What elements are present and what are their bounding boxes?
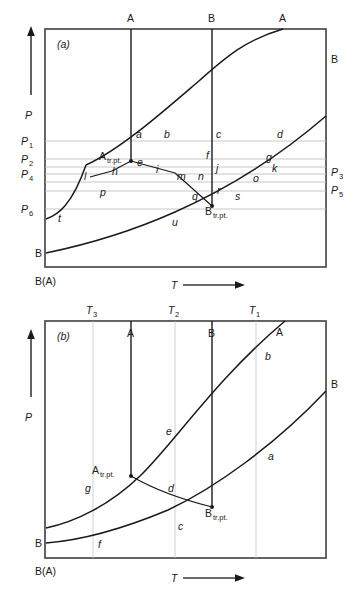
b-tr-pt-symbol: B [205, 205, 212, 217]
point-label-h: h [112, 165, 118, 177]
a-tr-pt-symbol-b: A [92, 464, 99, 476]
point-label-l: l [84, 170, 87, 182]
t-axis-a: T [171, 279, 245, 291]
panel-a-label: (a) [57, 38, 70, 50]
b-tr-pt-symbol-b: B [205, 507, 212, 519]
point-label-d-b: d [168, 482, 175, 494]
b-tr-pt-label: B tr.pt. [205, 205, 228, 220]
top-label-b-b: B [208, 327, 215, 339]
point-label-o: o [253, 172, 259, 184]
point-label-s: s [235, 190, 241, 202]
pressure-label-p3-symbol: P [331, 166, 338, 178]
a-tr-pt-sub-b: tr.pt. [100, 470, 115, 479]
b-tr-pt-sub: tr.pt. [213, 211, 228, 220]
b-tr-pt-sub-b: tr.pt. [213, 513, 228, 522]
pressure-label-p1: P 1 [21, 135, 33, 150]
point-label-m: m [177, 170, 186, 182]
pressure-label-p5-symbol: P [331, 184, 338, 196]
pressure-label-p3-sub: 3 [339, 172, 343, 181]
pressure-label-p2-sub: 2 [29, 159, 33, 168]
curve-end-label-a-b: A [276, 326, 283, 338]
left-label-b: B [35, 247, 42, 259]
temp-label-t2-sub: 2 [175, 310, 179, 319]
point-label-b: b [164, 128, 170, 140]
point-label-u: u [172, 216, 178, 228]
pressure-label-p6-sub: 6 [29, 209, 33, 218]
curve-a-left-tail [46, 165, 86, 219]
pressure-label-p5-sub: 5 [339, 190, 343, 199]
a-tr-pt-marker-b [129, 474, 133, 478]
curve-b-lower [46, 116, 326, 253]
pressure-label-p2-symbol: P [21, 153, 28, 165]
left-label-b-b: B [35, 537, 42, 549]
temp-label-t2: T 2 [168, 304, 179, 319]
top-label-b: B [208, 12, 215, 24]
point-label-g-b: g [85, 482, 91, 494]
curve-b-lower-b [46, 391, 326, 543]
t-axis-label-b: T [171, 572, 179, 584]
origin-label-a: B(A) [35, 275, 56, 287]
point-label-q: q [192, 190, 198, 202]
pressure-label-p3: P 3 [331, 166, 343, 181]
panel-b-label: (b) [57, 330, 70, 342]
right-label-b: B [331, 53, 338, 65]
panel-a: P (a) P 1 P 2 P 4 [0, 0, 355, 300]
origin-label-b: B(A) [35, 565, 56, 577]
pressure-label-p2: P 2 [21, 153, 33, 168]
pressure-label-p1-symbol: P [21, 135, 28, 147]
point-label-e: e [137, 156, 143, 168]
top-label-a-1: A [127, 12, 134, 24]
point-label-n: n [198, 170, 204, 182]
temp-label-t3-sub: 3 [93, 310, 97, 319]
panel-a-svg: P (a) P 1 P 2 P 4 [0, 0, 355, 300]
pressure-label-p4: P 4 [21, 168, 33, 183]
pressure-label-p4-sub: 4 [29, 174, 33, 183]
point-label-j: j [214, 162, 219, 174]
phase-diagram-figure: P (a) P 1 P 2 P 4 [0, 0, 355, 597]
temp-label-t3: T 3 [86, 304, 97, 319]
point-label-b-b: b [265, 350, 271, 362]
point-label-r: r [217, 184, 221, 196]
top-label-a-2: A [279, 12, 286, 24]
panel-b: P (b) T 3 T 2 T 1 [0, 300, 355, 597]
top-label-a-b: A [127, 327, 134, 339]
point-label-a: a [136, 128, 142, 140]
point-label-a-b: a [268, 450, 274, 462]
point-label-t: t [58, 212, 62, 224]
point-label-c-b: c [178, 520, 184, 532]
point-label-f-b: f [98, 538, 102, 550]
p-axis-arrow [27, 26, 35, 95]
pressure-label-p1-sub: 1 [29, 141, 33, 150]
p-axis-arrow-b [27, 329, 35, 397]
point-label-d: d [277, 128, 284, 140]
curve-a-upper [86, 29, 283, 165]
pressure-label-p5: P 5 [331, 184, 343, 199]
panel-b-svg: P (b) T 3 T 2 T 1 [0, 300, 355, 597]
a-tr-pt-label-b: A tr.pt. [92, 464, 115, 479]
temp-label-t1-sub: 1 [256, 310, 260, 319]
p-axis-label: P [25, 109, 32, 121]
pressure-label-p6: P 6 [21, 203, 33, 218]
b-tr-pt-label-b: B tr.pt. [205, 507, 228, 522]
p-axis-label-b: P [25, 411, 32, 423]
point-label-p: p [99, 186, 106, 198]
panel-a-frame [45, 29, 326, 267]
temp-label-t1: T 1 [249, 304, 260, 319]
panel-b-frame [45, 321, 326, 558]
point-label-k: k [272, 162, 278, 174]
a-tr-pt-marker [129, 159, 133, 163]
a-tr-pt-symbol: A [99, 150, 106, 162]
point-label-c: c [216, 128, 222, 140]
a-tr-pt-sub: tr.pt. [107, 156, 122, 165]
pressure-label-p4-symbol: P [21, 168, 28, 180]
t-axis-label-a: T [171, 279, 179, 291]
curve-end-label-b-b: B [331, 378, 338, 390]
pressure-label-p6-symbol: P [21, 203, 28, 215]
t-axis-b: T [171, 572, 245, 584]
point-label-e-b: e [166, 425, 172, 437]
